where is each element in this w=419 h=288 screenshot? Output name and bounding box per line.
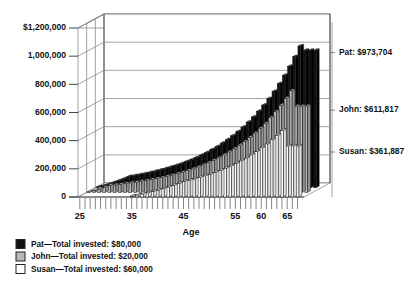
left-wall-depth-rail [78, 99, 104, 113]
bar-side-face [242, 159, 245, 197]
bar [234, 162, 240, 197]
y-axis-tick-label: 600,000 [35, 107, 66, 117]
bar [134, 181, 140, 193]
bar-side-face [257, 150, 260, 197]
bar [281, 129, 287, 197]
bar [270, 138, 276, 197]
bar-side-face [273, 138, 276, 197]
x-axis-tick-label: 35 [127, 211, 137, 221]
bar-side-face [308, 104, 311, 192]
x-axis-title: Age [182, 227, 199, 237]
chart-canvas: $1,200,0001,000,000800,000600,000400,000… [0, 0, 419, 288]
legend-swatch-john[interactable] [16, 252, 25, 261]
y-axis-tick-label: 0 [61, 191, 66, 201]
y-axis-tick-label: 200,000 [35, 163, 66, 173]
bar [218, 169, 224, 197]
y-axis-tick-label: 1,000,000 [28, 50, 66, 60]
bar-side-face [237, 162, 240, 197]
bar [103, 186, 109, 193]
bar [314, 49, 320, 188]
x-axis-tick-label: 55 [230, 211, 240, 221]
bar [239, 159, 245, 197]
bar-side-face [252, 153, 255, 197]
bar [260, 146, 266, 197]
bar-side-face [200, 176, 203, 197]
bar-side-face [190, 179, 193, 197]
bar [244, 156, 250, 197]
bar [291, 144, 297, 197]
left-wall-depth-rail [78, 42, 104, 56]
legend-swatch-susan[interactable] [16, 265, 25, 274]
bar [229, 164, 235, 197]
bar-side-face [174, 184, 177, 197]
bar [118, 183, 124, 193]
bar-side-face [316, 49, 319, 188]
bar-side-face [278, 134, 281, 197]
legend-swatch-pat[interactable] [16, 240, 25, 249]
bar-side-face [299, 144, 302, 197]
x-axis-tick-label: 65 [282, 211, 292, 221]
bar [139, 180, 145, 193]
annotation-label: Pat: $973,704 [339, 47, 392, 57]
bar [198, 176, 204, 197]
bar-side-face [211, 173, 214, 197]
bar [187, 179, 193, 197]
bar [265, 142, 271, 197]
bar-side-face [247, 156, 250, 197]
bar-side-face [142, 180, 145, 193]
bar [213, 171, 219, 197]
bar [182, 180, 188, 197]
bar [193, 177, 199, 197]
bar-front-face [130, 196, 133, 197]
bar-side-face [268, 142, 271, 197]
y-axis-tick-label: 400,000 [35, 135, 66, 145]
bar-side-face [136, 181, 139, 193]
left-wall-depth-rail [78, 155, 104, 169]
left-wall-depth-rail [78, 70, 104, 84]
legend-label-pat: Pat—Total invested: $80,000 [31, 240, 141, 249]
bar [123, 182, 129, 192]
bar-side-face [283, 129, 286, 197]
bar [203, 174, 209, 197]
bar-side-face [185, 180, 188, 197]
bar-side-face [289, 144, 292, 197]
bar [113, 183, 119, 192]
bar [286, 144, 292, 197]
bar-side-face [294, 144, 297, 197]
bar [208, 173, 214, 197]
bar [224, 167, 230, 197]
bar [255, 150, 261, 197]
bar [108, 184, 114, 192]
bar-side-face [180, 182, 183, 197]
legend-label-john: John—Total invested: $20,000 [31, 252, 148, 261]
bar-side-face [169, 185, 172, 197]
annotation-label: Susan: $361,887 [339, 146, 405, 156]
bar [250, 153, 256, 197]
bar-side-face [311, 49, 314, 188]
bar [144, 179, 150, 192]
y-axis-tick-label: $1,200,000 [23, 22, 66, 32]
y-axis-tick-label: 800,000 [35, 79, 66, 89]
bar-side-face [231, 164, 234, 197]
x-axis-tick-label: 25 [75, 211, 85, 221]
bar-side-face [147, 179, 150, 192]
bar [177, 182, 183, 197]
bar-side-face [302, 104, 305, 192]
investment-growth-chart: $1,200,0001,000,000800,000600,000400,000… [0, 0, 419, 288]
x-axis-tick-label: 60 [256, 211, 266, 221]
bar-side-face [216, 171, 219, 197]
annotation-label: John: $611,817 [339, 104, 399, 114]
bar [305, 104, 311, 192]
x-axis-tick-label: 45 [178, 211, 188, 221]
bar-side-face [206, 174, 209, 197]
bar [172, 184, 178, 197]
bar-side-face [226, 167, 229, 197]
bar-side-face [221, 169, 224, 197]
bar-side-face [195, 177, 198, 197]
bar [296, 144, 302, 197]
bar-side-face [263, 146, 266, 197]
bar [129, 181, 135, 192]
legend-label-susan: Susan—Total invested: $60,000 [31, 265, 153, 274]
left-wall-depth-rail [78, 127, 104, 141]
bar [275, 134, 281, 197]
